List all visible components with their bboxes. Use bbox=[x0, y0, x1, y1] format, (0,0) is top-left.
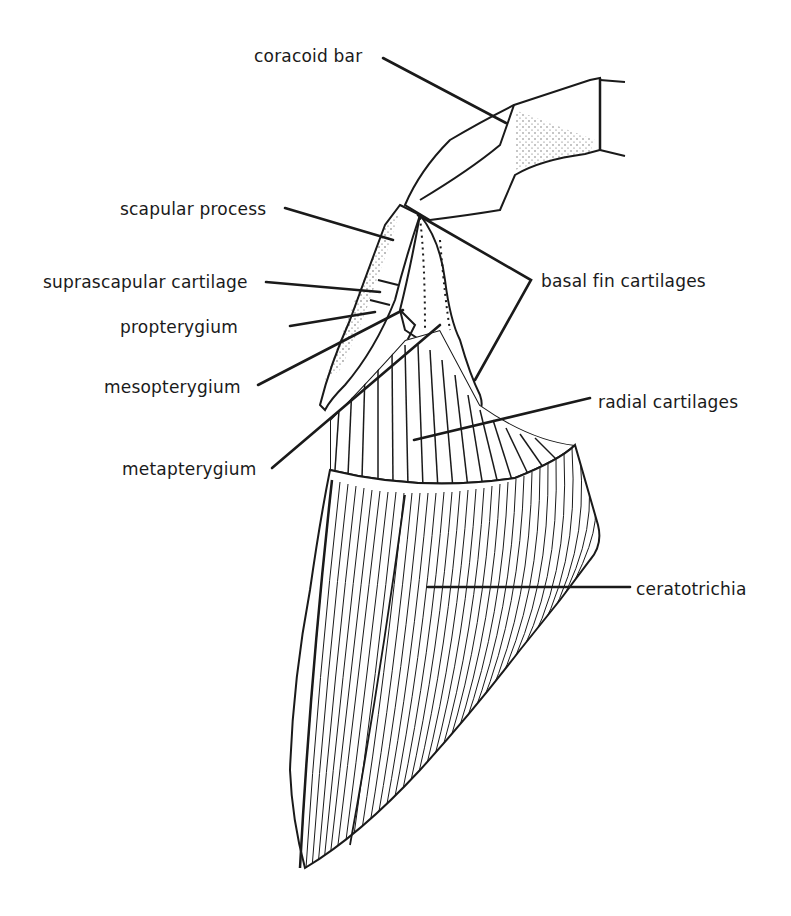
fin-diagram: coracoid bar scapular process suprascapu… bbox=[0, 0, 791, 916]
label-coracoid-bar: coracoid bar bbox=[254, 46, 362, 66]
leader-coracoid-bar bbox=[383, 58, 506, 123]
label-mesopterygium: mesopterygium bbox=[104, 377, 241, 397]
fin-illustration bbox=[0, 0, 791, 916]
ceratotrichia-shape bbox=[290, 445, 599, 868]
label-suprascapular-cartilage: suprascapular cartilage bbox=[43, 272, 248, 292]
label-basal-fin-cartilages: basal fin cartilages bbox=[541, 271, 706, 291]
coracoid-bar-shape bbox=[405, 78, 625, 220]
label-ceratotrichia: ceratotrichia bbox=[636, 579, 747, 599]
label-scapular-process: scapular process bbox=[120, 199, 266, 219]
label-propterygium: propterygium bbox=[120, 317, 238, 337]
label-metapterygium: metapterygium bbox=[122, 459, 257, 479]
leader-scapular-process bbox=[285, 208, 393, 240]
label-radial-cartilages: radial cartilages bbox=[598, 392, 738, 412]
